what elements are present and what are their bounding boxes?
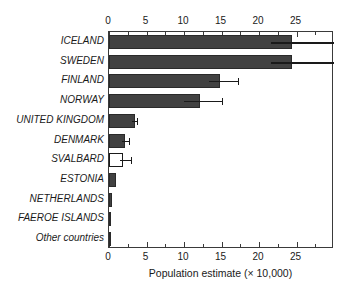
category-label-norway: NORWAY xyxy=(0,94,104,105)
bar-netherlands xyxy=(109,193,112,207)
error-cap-united-kingdom xyxy=(137,118,138,125)
population-bar-chart: 0510152025 0510152025 ICELANDSWEDENFINLA… xyxy=(0,0,352,288)
x-tick-label-top-25: 25 xyxy=(281,15,311,26)
category-label-denmark: DENMARK xyxy=(0,134,104,145)
x-tick-label-top-10: 10 xyxy=(168,15,198,26)
error-cap-denmark xyxy=(129,138,130,145)
error-bar-denmark xyxy=(122,141,129,142)
bar-faeroe-islands xyxy=(109,212,111,226)
category-label-svalbard: SVALBARD xyxy=(0,153,104,164)
error-bar-norway xyxy=(184,101,222,102)
x-tick-label-top-15: 15 xyxy=(206,15,236,26)
error-cap-norway xyxy=(222,98,223,105)
tick-bottom-27.5 xyxy=(315,244,316,247)
x-tick-label-bottom-5: 5 xyxy=(131,251,161,262)
bar-estonia xyxy=(109,173,116,187)
x-tick-label-bottom-15: 15 xyxy=(206,251,236,262)
x-tick-label-bottom-25: 25 xyxy=(281,251,311,262)
tick-bottom-22.5 xyxy=(278,244,279,247)
bar-other-countries xyxy=(109,232,111,246)
tick-bottom-12.5 xyxy=(203,244,204,247)
error-bar-sweden xyxy=(271,62,334,64)
tick-bottom-15 xyxy=(222,242,223,247)
x-tick-label-bottom-10: 10 xyxy=(168,251,198,262)
x-tick-label-bottom-0: 0 xyxy=(93,251,123,262)
category-label-netherlands: NETHERLANDS xyxy=(0,193,104,204)
x-tick-label-top-0: 0 xyxy=(93,15,123,26)
error-bar-svalbard xyxy=(120,160,131,161)
tick-bottom-5 xyxy=(147,242,148,247)
tick-bottom-2.5 xyxy=(128,244,129,247)
tick-bottom-10 xyxy=(184,242,185,247)
category-label-united-kingdom: UNITED KINGDOM xyxy=(0,114,104,125)
tick-top-27.5 xyxy=(315,32,316,35)
error-cap-svalbard xyxy=(131,157,132,164)
tick-bottom-20 xyxy=(259,242,260,247)
bar-iceland xyxy=(109,35,292,49)
x-tick-label-top-5: 5 xyxy=(131,15,161,26)
error-bar-finland xyxy=(209,81,238,82)
tick-top-25 xyxy=(297,32,298,37)
tick-bottom-17.5 xyxy=(240,244,241,247)
x-axis-title: Population estimate (× 10,000) xyxy=(108,267,333,279)
tick-bottom-7.5 xyxy=(165,244,166,247)
category-label-iceland: ICELAND xyxy=(0,35,104,46)
error-bar-iceland xyxy=(271,42,334,44)
plot-area xyxy=(108,31,333,248)
x-tick-label-bottom-20: 20 xyxy=(243,251,273,262)
category-label-finland: FINLAND xyxy=(0,74,104,85)
category-label-faeroe-islands: FAEROE ISLANDS xyxy=(0,212,104,223)
bar-finland xyxy=(109,74,220,88)
category-label-sweden: SWEDEN xyxy=(0,55,104,66)
category-label-other-countries: Other countries xyxy=(0,232,104,243)
category-label-estonia: ESTONIA xyxy=(0,173,104,184)
bar-united-kingdom xyxy=(109,114,135,128)
error-cap-finland xyxy=(238,78,239,85)
x-tick-label-top-20: 20 xyxy=(243,15,273,26)
bar-sweden xyxy=(109,55,292,69)
tick-bottom-25 xyxy=(297,242,298,247)
